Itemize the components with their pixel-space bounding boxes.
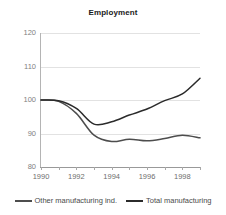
series-line-1 [41,78,200,125]
series-plot [41,33,200,167]
chart-legend: Other manufacturing ind.Total manufactur… [0,196,226,205]
x-tick-label-1996: 1996 [132,172,162,181]
x-tick-mark-1996 [147,167,148,170]
y-tick-label-110: 110 [4,63,36,71]
legend-entry-0: Other manufacturing ind. [15,196,118,205]
x-tick-mark-1995 [129,167,130,170]
x-tick-mark-1999 [200,167,201,170]
legend-label-0: Other manufacturing ind. [35,196,118,205]
x-axis-line [40,167,200,168]
legend-swatch-icon-1 [126,200,143,202]
x-tick-mark-1991 [59,167,60,170]
y-tick-label-80: 80 [4,163,36,171]
x-tick-label-1994: 1994 [97,172,127,181]
x-tick-mark-1997 [165,167,166,170]
y-axis-labels: 1201101009080 [0,0,36,215]
x-tick-mark-1990 [41,167,42,170]
x-tick-mark-1992 [76,167,77,170]
employment-line-chart: Employment 1201101009080 199019921994199… [0,0,226,215]
x-tick-label-1990: 1990 [26,172,56,181]
legend-entry-1: Total manufacturing [126,196,211,205]
x-tick-label-1998: 1998 [167,172,197,181]
legend-label-1: Total manufacturing [146,196,211,205]
x-tick-mark-1994 [112,167,113,170]
y-tick-label-90: 90 [4,130,36,138]
x-tick-label-1992: 1992 [61,172,91,181]
y-tick-label-100: 100 [4,96,36,104]
x-tick-mark-1993 [94,167,95,170]
y-tick-label-120: 120 [4,29,36,37]
legend-swatch-icon-0 [15,200,32,202]
series-line-0 [41,100,200,142]
x-tick-mark-1998 [182,167,183,170]
